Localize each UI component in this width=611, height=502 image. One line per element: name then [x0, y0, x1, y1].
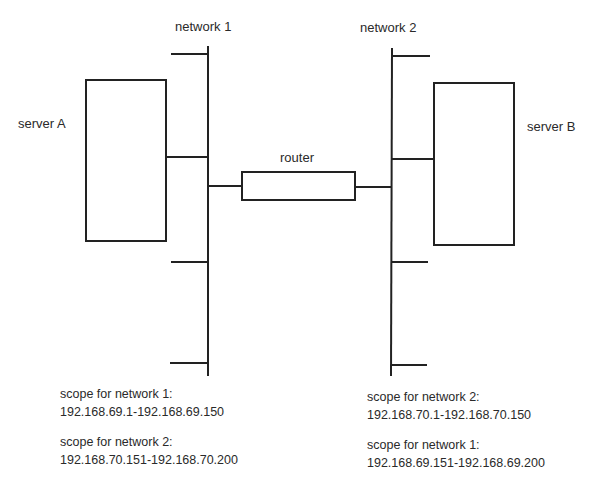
scope-list-server-a: scope for network 1: 192.168.69.1-192.16… [60, 385, 238, 469]
scope-title: scope for network 1: [60, 385, 238, 403]
scope-title: scope for network 2: [60, 433, 238, 451]
scope-range: 192.168.69.1-192.168.69.150 [60, 403, 238, 421]
network-1-label: network 1 [175, 19, 231, 34]
server-a-label: server A [18, 116, 66, 131]
network-2-bus [391, 48, 392, 376]
router-label: router [280, 150, 314, 165]
scope-range: 192.168.70.1-192.168.70.150 [367, 406, 545, 424]
scope-range: 192.168.70.151-192.168.70.200 [60, 451, 238, 469]
scope-list-server-b: scope for network 2: 192.168.70.1-192.16… [367, 388, 545, 472]
server-b-label: server B [527, 119, 575, 134]
scope-title: scope for network 1: [367, 436, 545, 454]
server-a-box [86, 80, 166, 241]
scope-range: 192.168.69.151-192.168.69.200 [367, 454, 545, 472]
scope-title: scope for network 2: [367, 388, 545, 406]
server-b-box [434, 83, 514, 245]
network-2-label: network 2 [360, 20, 416, 35]
router-box [242, 172, 355, 200]
